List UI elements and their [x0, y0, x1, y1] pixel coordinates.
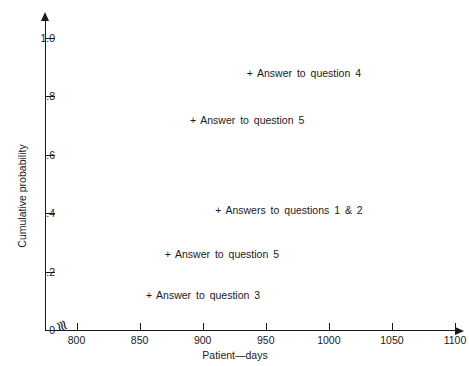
x-tick-label-850: 850	[131, 334, 149, 346]
x-tick-label-950: 950	[257, 334, 275, 346]
y-axis-arrow-icon	[41, 12, 49, 21]
plus-marker-icon: +	[215, 204, 221, 216]
data-point-annotation: +Answer to question 4	[247, 67, 361, 79]
x-tick-mark	[140, 323, 141, 331]
plus-marker-icon: +	[247, 67, 253, 79]
data-point-annotation: +Answer to question 5	[190, 114, 304, 126]
plus-marker-icon: +	[165, 248, 171, 260]
y-tick-mark	[46, 272, 55, 273]
x-tick-label-800: 800	[68, 334, 86, 346]
axis-break-icon: ≋	[52, 318, 70, 334]
y-tick-mark	[46, 155, 55, 156]
y-axis-title: Cumulative probability	[16, 116, 28, 276]
x-tick-mark	[392, 323, 393, 331]
data-point-label: Answer to question 5	[200, 114, 304, 126]
x-tick-label-1050: 1050	[380, 334, 403, 346]
data-point-label: Answer to question 3	[156, 289, 260, 301]
x-axis-line	[45, 330, 455, 331]
x-tick-label-1000: 1000	[317, 334, 340, 346]
x-tick-label-1100: 1100	[444, 334, 467, 346]
scatter-chart-figure: 0.2.4.6.81.0 Cumulative probability 8008…	[0, 0, 469, 366]
x-axis-title: Patient—days	[190, 349, 280, 361]
y-tick-mark	[46, 213, 55, 214]
y-tick-mark	[46, 38, 55, 39]
data-point-annotation: +Answer to question 5	[165, 248, 279, 260]
x-tick-label-900: 900	[194, 334, 212, 346]
data-point-annotation: +Answer to question 3	[146, 289, 260, 301]
x-tick-mark	[329, 323, 330, 331]
plus-marker-icon: +	[190, 114, 196, 126]
data-point-label: Answer to question 4	[257, 67, 361, 79]
x-tick-mark	[203, 323, 204, 331]
x-tick-mark	[455, 323, 456, 331]
x-tick-mark	[77, 323, 78, 331]
y-tick-mark	[46, 96, 55, 97]
plus-marker-icon: +	[146, 289, 152, 301]
y-axis-line	[45, 20, 46, 331]
data-point-label: Answers to questions 1 & 2	[225, 204, 362, 216]
data-point-annotation: +Answers to questions 1 & 2	[215, 204, 362, 216]
data-point-label: Answer to question 5	[175, 248, 279, 260]
x-tick-mark	[266, 323, 267, 331]
